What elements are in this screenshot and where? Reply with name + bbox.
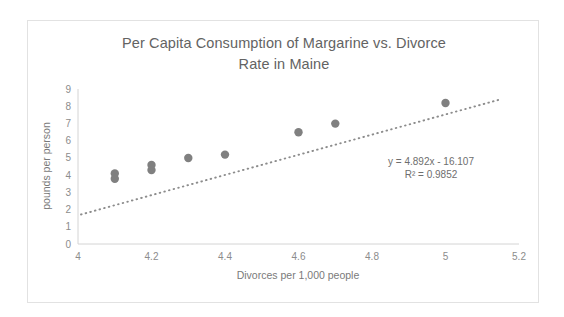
x-tick-label: 4.8 [365, 251, 379, 262]
y-tick-label: 7 [65, 118, 71, 129]
y-tick-label: 5 [65, 152, 71, 163]
x-axis-title: Divorces per 1,000 people [237, 269, 360, 281]
x-tick-label: 4.2 [145, 251, 159, 262]
data-point[interactable] [184, 154, 192, 162]
r-squared-text: R² = 0.9852 [405, 169, 458, 180]
data-point[interactable] [331, 119, 339, 127]
data-point[interactable] [111, 169, 119, 177]
data-point-group[interactable] [111, 99, 450, 183]
y-tick-label: 1 [65, 221, 71, 232]
y-tick-label: 2 [65, 204, 71, 215]
y-tick-label: 3 [65, 187, 71, 198]
chart-container[interactable]: Per Capita Consumption of Margarine vs. … [27, 20, 539, 303]
y-axis-title: pounds per person [40, 122, 52, 210]
x-tick-label: 5 [443, 251, 449, 262]
equation-text: y = 4.892x - 16.107 [388, 156, 474, 167]
data-point[interactable] [294, 128, 302, 136]
trendline-equation-annotation: y = 4.892x - 16.107 R² = 0.9852 [388, 156, 474, 180]
x-axis-tick-labels: 4 4.2 4.4 4.6 4.8 5 5.2 [75, 251, 526, 262]
data-point[interactable] [147, 161, 155, 169]
y-tick-label: 9 [65, 84, 71, 95]
x-tick-label: 4 [75, 251, 81, 262]
x-tick-label: 4.4 [218, 251, 232, 262]
data-point[interactable] [441, 99, 449, 107]
x-tick-label: 5.2 [512, 251, 526, 262]
y-tick-label: 6 [65, 135, 71, 146]
scatter-plot[interactable]: 9 8 7 6 5 4 3 2 1 0 4 4.2 4.4 4.6 4.8 5 … [28, 21, 540, 304]
y-tick-label: 0 [65, 239, 71, 250]
y-tick-label: 4 [65, 170, 71, 181]
y-axis-tick-labels: 9 8 7 6 5 4 3 2 1 0 [65, 84, 71, 250]
y-tick-label: 8 [65, 101, 71, 112]
x-tick-label: 4.6 [292, 251, 306, 262]
data-point[interactable] [221, 150, 229, 158]
